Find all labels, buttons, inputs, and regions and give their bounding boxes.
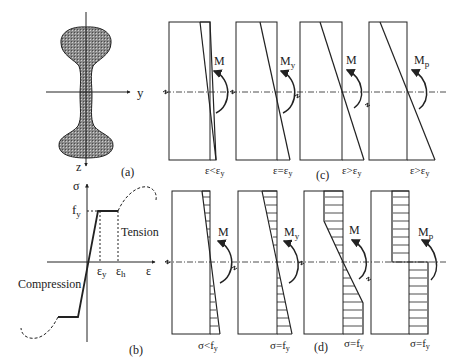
figure-canvas: y z (a) σ ε fy εy εh Tension Compression… [0, 0, 452, 363]
eps-y-label: εy [97, 264, 107, 279]
moment-arrow [412, 70, 427, 109]
stress-condition-label: σ<fy [198, 339, 218, 353]
stress-diagram-2: My σ=fy [232, 191, 300, 353]
strain-condition-label: ε>εy [410, 164, 429, 178]
panel-b-label: (b) [129, 343, 143, 357]
break-mark [232, 266, 237, 270]
panel-d-label: (d) [314, 340, 328, 354]
strain-condition-label: ε>εy [342, 164, 361, 178]
stress-condition-label: σ=fy [344, 337, 364, 351]
break-mark [295, 94, 300, 98]
strain-diagram-1: M ε<εy [163, 22, 228, 178]
sigma-axis-label: σ [73, 179, 80, 193]
eps-h-label: εh [116, 264, 126, 279]
stress-strain-curve [58, 211, 118, 317]
compression-label: Compression [18, 277, 81, 291]
break-mark [230, 90, 235, 94]
tension-label: Tension [121, 225, 159, 239]
stress-diagram-3: M σ=fy (d) [299, 191, 366, 354]
panel-a-label: (a) [121, 165, 134, 179]
y-axis-label: y [137, 85, 144, 100]
strain-condition-label: ε=εy [273, 164, 292, 178]
moment-label: M [349, 223, 360, 237]
break-mark [165, 260, 170, 264]
moment-label: M [218, 225, 229, 239]
strain-hardening-tension [118, 187, 156, 211]
panel-c-strain-diagrams: M ε<εy My ε=εy M ε>εy (c) [163, 22, 448, 182]
stress-diagram-1: M σ<fy [165, 191, 232, 353]
moment-label: M [214, 54, 225, 68]
moment-label: M [346, 53, 357, 67]
stress-condition-label: σ=fy [270, 339, 290, 353]
break-mark [366, 277, 371, 281]
panel-a-cross-section: y z (a) [46, 12, 144, 179]
fy-label: fy [72, 202, 81, 219]
moment-label: Mp [418, 225, 434, 241]
strain-diagram-2: My ε=εy [230, 22, 296, 178]
epsilon-axis-label: ε [146, 264, 151, 278]
moment-label: My [280, 54, 296, 70]
z-axis-label: z [76, 160, 81, 174]
strain-diagram-3: M ε>εy (c) [295, 22, 364, 182]
moment-label: Mp [414, 53, 430, 69]
stress-diagram-4: Mp σ=fy [366, 191, 437, 351]
panel-c-label: (c) [316, 168, 329, 182]
moment-arrow [352, 240, 366, 279]
stress-condition-label: σ=fy [410, 337, 430, 351]
panel-d-stress-diagrams: M σ<fy My σ=fy [165, 191, 448, 354]
strain-hardening-compression [21, 317, 58, 338]
panel-b-stress-strain: σ ε fy εy εh Tension Compression (b) [18, 179, 159, 357]
moment-label: My [284, 225, 300, 241]
moment-arrow [422, 240, 437, 280]
strain-diagram-4: Mp ε>εy [365, 22, 435, 178]
break-mark [163, 90, 168, 94]
moment-arrow [347, 70, 362, 108]
strain-condition-label: ε<εy [205, 164, 224, 178]
